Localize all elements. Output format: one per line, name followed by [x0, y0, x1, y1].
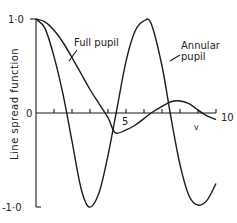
y-tick-label-top: 1·0 — [8, 14, 24, 25]
x-tick-label-10: 10 — [221, 112, 234, 123]
line-spread-chart: 1·0 0 -1·0 5 10 v Line spread function F… — [0, 0, 237, 223]
x-ticks — [54, 109, 216, 113]
y-axis-label: Line spread function — [9, 48, 20, 160]
y-tick-label-bottom: -1·0 — [2, 202, 22, 213]
annular-label-line1: Annular — [181, 40, 221, 51]
x-tick-label-5: 5 — [122, 116, 128, 127]
annular-label-line2: pupil — [181, 51, 206, 62]
full-pupil-label: Full pupil — [74, 37, 119, 48]
x-axis-label: v — [194, 123, 199, 132]
y-tick-label-zero: 0 — [26, 108, 32, 119]
annular-pointer — [170, 55, 180, 61]
